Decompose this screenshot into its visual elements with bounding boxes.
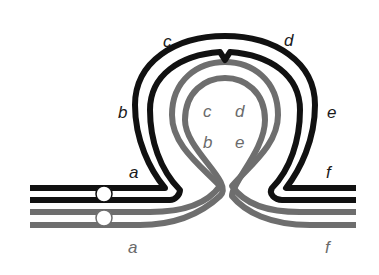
label-inner-e: e [235,133,244,152]
marker-black [96,186,112,202]
label-inner-d: d [235,102,245,121]
marker-gray [96,210,112,226]
label-outer-f: f [326,163,333,182]
loop-diagram: c d b e a f c d b e a f [0,0,379,275]
label-bottom-f: f [325,238,332,257]
label-outer-a: a [129,163,138,182]
label-bottom-a: a [128,238,137,257]
label-outer-c: c [163,32,172,51]
label-outer-e: e [327,103,336,122]
label-outer-d: d [284,31,294,50]
label-inner-b: b [203,133,212,152]
label-outer-b: b [118,103,127,122]
label-inner-c: c [203,102,212,121]
